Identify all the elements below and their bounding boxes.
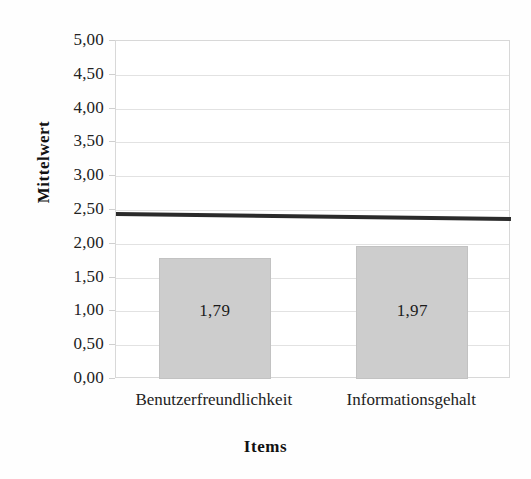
y-axis-tick-label: 2,50	[73, 199, 104, 219]
gridline	[116, 109, 509, 110]
y-axis-tick-mark	[109, 344, 115, 345]
y-axis-tick-label: 5,00	[73, 30, 104, 50]
bar-chart-figure: Mittelwert 5,004,504,003,503,002,502,001…	[0, 0, 531, 479]
bar: 1,97	[356, 246, 468, 379]
reference-line	[116, 212, 511, 221]
x-axis-category-label: Informationsgehalt	[313, 390, 511, 410]
y-axis-tick-mark	[109, 108, 115, 109]
gridline	[116, 142, 509, 143]
y-axis-tick-label: 2,00	[73, 233, 104, 253]
bar: 1,79	[159, 258, 271, 379]
y-axis-title: Mittelwert	[34, 102, 54, 222]
y-axis-tick-label: 0,00	[73, 368, 104, 388]
x-axis-title: Items	[0, 437, 531, 457]
y-axis-tick-label: 1,00	[73, 300, 104, 320]
y-axis-tick-mark	[109, 175, 115, 176]
y-axis-tick-mark	[109, 209, 115, 210]
y-axis-tick-mark	[109, 310, 115, 311]
y-axis-tick-mark	[109, 243, 115, 244]
y-axis-tick-label: 4,50	[73, 64, 104, 84]
gridline	[116, 176, 509, 177]
gridline	[116, 244, 509, 245]
y-axis-tick-mark	[109, 74, 115, 75]
y-axis-tick-label: 3,00	[73, 165, 104, 185]
y-axis-tick-label: 1,50	[73, 267, 104, 287]
y-axis-tick-mark	[109, 141, 115, 142]
plot-area: 1,791,97	[115, 40, 510, 378]
y-axis-tick-mark	[109, 40, 115, 41]
gridline	[116, 210, 509, 211]
bar-value-label: 1,97	[357, 301, 467, 321]
y-axis-tick-labels: 5,004,504,003,503,002,502,001,501,000,50…	[52, 40, 110, 378]
y-axis-tick-label: 4,00	[73, 98, 104, 118]
x-axis-category-label: Benutzerfreundlichkeit	[115, 390, 313, 410]
y-axis-tick-label: 0,50	[73, 334, 104, 354]
gridline	[116, 75, 509, 76]
y-axis-tick-mark	[109, 378, 115, 379]
bar-value-label: 1,79	[160, 301, 270, 321]
y-axis-tick-mark	[109, 277, 115, 278]
y-axis-tick-label: 3,50	[73, 131, 104, 151]
